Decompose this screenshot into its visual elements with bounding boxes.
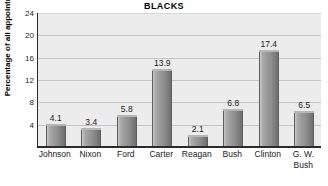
bar-cap (152, 69, 172, 71)
x-tick-label-line: Clinton (255, 149, 281, 159)
bar-value-label: 5.8 (121, 104, 133, 114)
x-tick-label-line: Bush (282, 160, 324, 171)
bar-value-label: 4.1 (50, 113, 62, 123)
bar-cap (188, 135, 208, 137)
bar-group[interactable]: 3.4 (74, 13, 110, 147)
y-tick-label: 20 (12, 31, 34, 40)
bar[interactable] (259, 50, 279, 147)
y-tick-label: 4 (12, 120, 34, 129)
bar[interactable] (81, 128, 101, 147)
x-tick-label-line: Johnson (39, 149, 71, 159)
bar-value-label: 17.4 (260, 39, 277, 49)
x-axis-tick-labels: JohnsonNixonFordCarterReaganBushClintonG… (37, 149, 321, 185)
y-tick-label: 24 (12, 9, 34, 18)
bar[interactable] (223, 109, 243, 147)
x-tick-label-line: Ford (117, 149, 134, 159)
x-tick-label-line: Reagan (182, 149, 212, 159)
bar-group[interactable]: 2.1 (180, 13, 216, 147)
bar-series: 4.13.45.813.92.16.817.46.5 (38, 13, 321, 147)
bar-group[interactable]: 4.1 (38, 13, 74, 147)
plot-area: 4.13.45.813.92.16.817.46.5 (37, 13, 321, 147)
bar-value-label: 3.4 (85, 117, 97, 127)
bar-value-label: 2.1 (192, 124, 204, 134)
bar[interactable] (152, 69, 172, 147)
bar-group[interactable]: 17.4 (251, 13, 287, 147)
bar[interactable] (294, 111, 314, 147)
y-tick-label: 16 (12, 53, 34, 62)
bar-cap (294, 111, 314, 113)
x-tick-label-line: Carter (149, 149, 173, 159)
bar-value-label: 6.5 (298, 100, 310, 110)
bar-group[interactable]: 6.8 (216, 13, 252, 147)
x-tick-label: G. W.Bush (282, 149, 324, 170)
x-axis-line (37, 146, 321, 148)
bar-cap (46, 124, 66, 126)
y-tick-label: 12 (12, 76, 34, 85)
chart-title: BLACKS (0, 1, 328, 11)
bar-group[interactable]: 13.9 (145, 13, 181, 147)
x-tick-label-line: Bush (223, 149, 242, 159)
bar[interactable] (117, 115, 137, 147)
bar-value-label: 6.8 (227, 98, 239, 108)
bar-cap (117, 115, 137, 117)
bar-group[interactable]: 5.8 (109, 13, 145, 147)
bar-cap (223, 109, 243, 111)
bar-cap (81, 128, 101, 130)
bar-chart: BLACKS Percentage of all appointments 24… (0, 0, 328, 186)
x-tick-label-line: G. W. (293, 149, 314, 159)
y-axis-tick-labels: 2420161284 (12, 13, 34, 147)
y-tick-label: 8 (12, 98, 34, 107)
bar-group[interactable]: 6.5 (287, 13, 323, 147)
bar[interactable] (46, 124, 66, 147)
x-tick-label-line: Nixon (79, 149, 101, 159)
bar-value-label: 13.9 (154, 58, 171, 68)
bar-cap (259, 50, 279, 52)
